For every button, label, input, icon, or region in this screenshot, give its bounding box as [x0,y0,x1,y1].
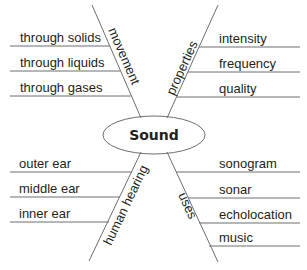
item-label: through solids [20,30,101,45]
item-label: sonogram [219,156,277,171]
item-label: music [219,230,253,245]
branch-properties: properties intensity frequency quality [163,5,300,118]
item-label: inner ear [19,206,71,221]
item-label: quality [219,81,257,96]
item-label: through liquids [20,55,105,70]
branch-label-movement: movement [105,25,143,87]
branch-label-human-hearing: human hearing [100,163,151,248]
branch-label-properties: properties [163,38,201,97]
branch-line-human-hearing [89,152,141,261]
branch-uses: uses sonogram sonar echolocation music [167,152,300,262]
branch-movement: movement through solids through liquids … [10,5,143,118]
item-label: middle ear [19,181,80,196]
item-label: through gases [20,80,103,95]
center-node: Sound [103,116,205,154]
spider-map: Sound movement through solids through li… [0,0,307,270]
item-label: outer ear [19,156,72,171]
item-label: intensity [219,31,267,46]
item-label: echolocation [219,207,292,222]
item-label: frequency [219,56,277,71]
item-label: sonar [219,182,252,197]
branch-human-hearing: human hearing outer ear middle ear inner… [10,152,151,261]
center-label: Sound [129,127,179,143]
